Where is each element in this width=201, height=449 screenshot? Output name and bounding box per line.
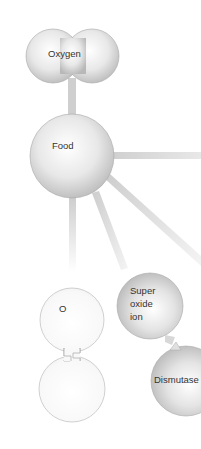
connector-food-diagonal-short xyxy=(92,191,128,270)
o-atom-label: O xyxy=(59,303,66,314)
connector-oxygen-food xyxy=(68,78,76,116)
connector-food-right xyxy=(110,152,201,159)
diagram-canvas: Oxygen Food O Super oxide ion Dismutase xyxy=(0,0,201,449)
superoxide-label-line1: Super xyxy=(130,285,155,296)
dismutase-label: Dismutase xyxy=(154,374,199,385)
superoxide-ion-node: Super oxide ion xyxy=(117,273,183,345)
oxygen-molecule: Oxygen xyxy=(26,29,119,83)
dismutase-node: Dismutase xyxy=(151,342,201,416)
superoxide-label-line2: oxide xyxy=(130,298,153,309)
food-node: Food xyxy=(30,114,114,198)
superoxide-label-line3: ion xyxy=(130,311,143,322)
o-atom-pair: O xyxy=(39,288,105,422)
connector-food-down xyxy=(69,196,76,272)
oxygen-label: Oxygen xyxy=(48,48,81,59)
food-label: Food xyxy=(52,140,74,151)
